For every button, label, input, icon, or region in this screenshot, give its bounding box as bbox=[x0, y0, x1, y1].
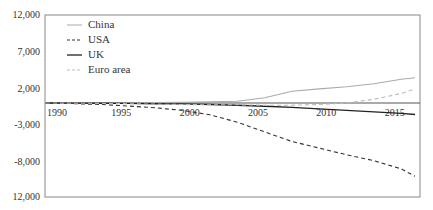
legend-item-china: China bbox=[67, 18, 114, 30]
x-tick-label: 1990 bbox=[47, 107, 67, 118]
legend-label-china: China bbox=[88, 18, 114, 30]
x-tick-label: 2005 bbox=[248, 107, 268, 118]
legend-label-euro-area: Euro area bbox=[88, 63, 131, 75]
y-axis: 12,0007,0002,000-3,000-8,00012,000 bbox=[13, 9, 41, 202]
y-tick-label: -8,000 bbox=[14, 156, 40, 167]
legend-item-uk: UK bbox=[67, 48, 104, 60]
y-tick-label: 12,000 bbox=[13, 191, 41, 202]
y-tick-label: 7,000 bbox=[18, 46, 41, 57]
x-tick-label: 1995 bbox=[111, 107, 131, 118]
y-tick-label: 2,000 bbox=[18, 83, 41, 94]
legend: China USA UK Euro area bbox=[67, 18, 131, 75]
line-chart: 12,0007,0002,000-3,000-8,00012,000 19901… bbox=[0, 0, 433, 210]
legend-item-usa: USA bbox=[67, 33, 110, 45]
legend-label-usa: USA bbox=[88, 33, 110, 45]
series-line-usa bbox=[46, 103, 415, 176]
x-axis: 199019952000200520102015 bbox=[47, 107, 405, 118]
legend-item-euro-area: Euro area bbox=[67, 63, 131, 75]
series-line-china bbox=[46, 78, 415, 103]
x-tick-label: 2000 bbox=[180, 107, 200, 118]
legend-label-uk: UK bbox=[88, 48, 104, 60]
y-tick-label: 12,000 bbox=[13, 9, 41, 20]
y-tick-label: -3,000 bbox=[14, 119, 40, 130]
series-lines bbox=[46, 78, 415, 177]
